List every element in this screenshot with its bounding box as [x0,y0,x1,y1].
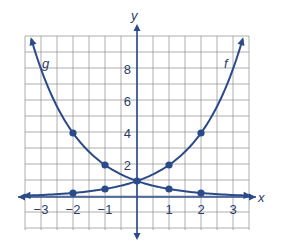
curve-f [23,39,242,195]
curve-g [31,39,250,195]
y-tick-label: 2 [124,158,131,173]
data-point [133,177,140,184]
data-point [101,161,108,168]
data-point [101,185,108,192]
data-point [197,129,204,136]
y-tick-label: 6 [124,94,131,109]
data-point [69,129,76,136]
exponential-graph: −3−2−11232468 y x g f [0,0,281,243]
x-tick-label: 2 [197,202,204,217]
y-tick-label: 8 [124,62,131,77]
y-axis-arrow-up-icon [134,24,141,31]
x-axis-arrow-right-icon [249,194,256,201]
x-axis-arrow-left-icon [18,194,25,201]
curve-f-arrow-icon [238,37,245,46]
data-point [69,189,76,196]
y-tick-label: 4 [124,126,131,141]
curve-label-g: g [42,56,50,71]
curve-g-arrow-icon [30,37,37,46]
x-tick-label: −2 [66,202,81,217]
y-axis-arrow-down-icon [134,233,141,240]
x-tick-label: 3 [229,202,236,217]
data-point [165,161,172,168]
y-axis-label: y [130,8,139,23]
x-tick-label: 1 [165,202,172,217]
data-point [165,185,172,192]
x-axis-label: x [257,190,265,205]
x-tick-label: −1 [98,202,113,217]
data-point [197,189,204,196]
x-tick-label: −3 [34,202,49,217]
curve-label-f: f [224,56,229,71]
